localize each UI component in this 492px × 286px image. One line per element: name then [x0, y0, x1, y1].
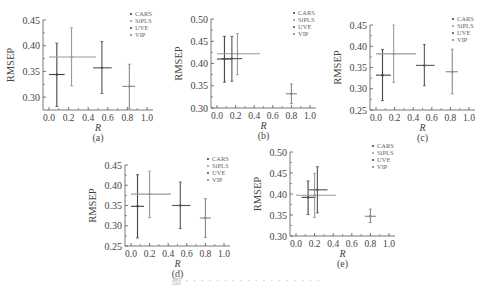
y-tick-label: 0.30 — [270, 231, 288, 242]
data-point — [56, 73, 58, 75]
x-tick-label: 1.0 — [463, 113, 475, 123]
x-tick-label: 0.6 — [181, 249, 193, 259]
legend-marker-icon — [130, 27, 132, 29]
y-tick-label: 0.25 — [105, 241, 123, 252]
x-tick-label: 1.0 — [304, 111, 316, 121]
data-point — [381, 74, 383, 76]
legend-item-uve: UVE — [457, 29, 470, 36]
y-tick-label: 0.30 — [105, 220, 123, 231]
legend-item-vip: VIP — [298, 30, 309, 37]
legend-item-cars: CARS — [457, 15, 474, 22]
legend-item-vip: VIP — [377, 163, 388, 170]
y-tick-label: 0.45 — [191, 36, 209, 47]
y-tick-label: 0.30 — [191, 103, 209, 114]
y-tick-label: 0.45 — [23, 15, 41, 26]
legend-marker-icon — [452, 18, 454, 20]
data-point — [423, 64, 425, 66]
panel-label: (e) — [337, 258, 348, 270]
x-tick-label: 0.0 — [290, 239, 302, 249]
x-tick-label: 0.4 — [248, 111, 260, 121]
legend-marker-icon — [293, 19, 295, 21]
legend-item-uve: UVE — [298, 23, 311, 30]
legend-item-sipls: SiPLS — [212, 162, 229, 169]
data-point — [148, 193, 150, 195]
x-tick-label: 0.4 — [162, 249, 174, 259]
x-tick-label: 0.6 — [426, 113, 438, 123]
y-tick-label: 0.35 — [23, 66, 41, 77]
subplot-d: 0.250.300.350.400.450.00.20.40.60.81.0R(… — [80, 136, 245, 268]
errorbar-sipls — [296, 173, 336, 217]
legend-item-cars: CARS — [377, 142, 394, 149]
x-tick-label: 0.8 — [285, 111, 297, 121]
y-tick-label: 0.45 — [350, 20, 368, 31]
legend-marker-icon — [372, 159, 374, 161]
errorbar-vip — [123, 64, 136, 108]
y-axis-label: RMSEP — [252, 177, 263, 212]
y-tick-label: 0.40 — [270, 189, 288, 200]
data-point — [136, 205, 138, 207]
data-point — [392, 53, 394, 55]
errorbar-cars — [376, 50, 391, 101]
x-tick-label: 0.8 — [444, 113, 456, 123]
x-tick-label: 0.8 — [199, 249, 211, 259]
legend-marker-icon — [293, 26, 295, 28]
y-tick-label: 0.30 — [350, 83, 368, 94]
x-tick-label: 0.2 — [309, 239, 321, 249]
x-tick-label: 0.0 — [370, 113, 382, 123]
panel-label: (c) — [417, 132, 428, 144]
x-tick-label: 1.0 — [141, 113, 153, 123]
x-tick-label: 0.6 — [102, 113, 114, 123]
errorbar-sipls — [217, 34, 260, 75]
legend-marker-icon — [372, 166, 374, 168]
data-point — [313, 194, 315, 196]
subplot-b: 0.300.350.400.450.500.00.20.40.60.81.0R(… — [163, 0, 328, 136]
legend-marker-icon — [207, 179, 209, 181]
errorbar-uve — [309, 167, 328, 213]
y-axis-label: RMSEP — [87, 188, 98, 223]
errorbar-cars — [49, 43, 65, 106]
x-tick-label: 0.2 — [144, 249, 156, 259]
legend-item-cars: CARS — [298, 9, 315, 16]
x-tick-label: 0.6 — [346, 239, 358, 249]
x-tick-label: 0.0 — [43, 113, 55, 123]
legend-item-vip: VIP — [135, 31, 146, 38]
data-point — [101, 67, 103, 69]
legend-item-vip: VIP — [212, 176, 223, 183]
legend-marker-icon — [130, 13, 132, 15]
errorbar-cars — [131, 175, 144, 238]
legend-item-sipls: SiPLS — [377, 149, 394, 156]
data-point — [70, 56, 72, 58]
data-point — [316, 189, 318, 191]
y-tick-label: 0.35 — [350, 62, 368, 73]
x-tick-label: 0.4 — [82, 113, 94, 123]
subplot-a: 0.300.350.400.450.00.20.40.60.81.0R(a)RM… — [0, 0, 165, 136]
y-tick-label: 0.40 — [23, 40, 41, 51]
legend-marker-icon — [372, 152, 374, 154]
subplot-c: 0.250.300.350.400.450.00.20.40.60.81.0R(… — [325, 0, 492, 136]
legend-marker-icon — [207, 172, 209, 174]
errorbar-uve — [416, 45, 435, 86]
legend-item-vip: VIP — [457, 36, 468, 43]
y-tick-label: 0.40 — [350, 41, 368, 52]
x-tick-label: 0.4 — [327, 239, 339, 249]
figure-caption: 图 · · · · · · · · · · · · · · · · · · — [0, 274, 492, 286]
y-tick-label: 0.40 — [191, 58, 209, 69]
errorbar-cars — [302, 181, 316, 215]
legend-item-cars: CARS — [135, 10, 152, 17]
legend-marker-icon — [207, 158, 209, 160]
x-tick-label: 0.2 — [389, 113, 401, 123]
data-point — [236, 53, 238, 55]
errorbar-vip — [446, 49, 458, 94]
legend-item-uve: UVE — [212, 169, 225, 176]
y-tick-label: 0.40 — [105, 180, 123, 191]
y-tick-label: 0.35 — [191, 80, 209, 91]
x-tick-label: 0.4 — [407, 113, 419, 123]
x-tick-label: 0.0 — [125, 249, 137, 259]
legend-item-sipls: SiPLS — [457, 22, 474, 29]
x-tick-label: 1.0 — [383, 239, 395, 249]
x-tick-label: 0.8 — [364, 239, 376, 249]
y-tick-label: 0.35 — [105, 200, 123, 211]
data-point — [290, 93, 292, 95]
legend-item-sipls: SiPLS — [298, 16, 315, 23]
legend-marker-icon — [130, 34, 132, 36]
